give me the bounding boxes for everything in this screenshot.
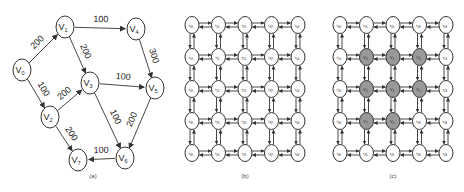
- caption-b: (b): [241, 173, 248, 179]
- graph-a: 200100100200200200100100300200100V0V1V2V…: [13, 14, 164, 171]
- edge-V3-V5: [100, 84, 144, 87]
- edge-weight-label: 300: [147, 47, 161, 64]
- grid-c: t00t01t02t03t04t10V0V1V4t14t20V2V3V5t24t…: [333, 17, 453, 162]
- grid-b: t00t01t02t03t04t10t11t12t13t14t20t21t22t…: [185, 17, 305, 162]
- edge-weight-label: 100: [93, 145, 108, 156]
- diagram-canvas: 200100100200200200100100300200100V0V1V2V…: [0, 0, 464, 192]
- figure: 200100100200200200100100300200100V0V1V2V…: [0, 0, 464, 192]
- edge-weight-label: 100: [115, 71, 131, 82]
- edge-weight-label: 200: [63, 125, 80, 143]
- edge-weight-label: 200: [78, 42, 93, 60]
- edge-V6-V7: [89, 158, 115, 159]
- edge-V1-V4: [75, 27, 125, 28]
- edge-weight-label: 100: [108, 108, 123, 126]
- edge-weight-label: 100: [36, 80, 52, 98]
- caption-c: (c): [390, 173, 397, 179]
- caption-a: (a): [89, 173, 96, 179]
- edge-weight-label: 100: [93, 14, 108, 24]
- edge-weight-label: 200: [124, 111, 139, 129]
